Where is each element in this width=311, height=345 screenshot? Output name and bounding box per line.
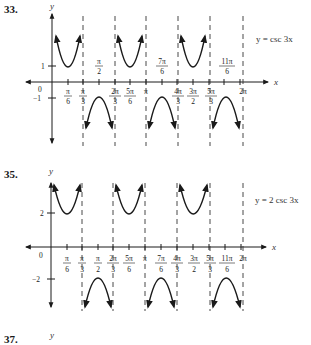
- x-axis-label: x: [273, 77, 278, 87]
- problem-number: 33.: [4, 3, 18, 15]
- svg-text:π: π: [96, 254, 100, 263]
- svg-text:6: 6: [225, 67, 229, 76]
- figure-page: 33. y x y = csc 3x 1 −1 0 π6 π3 2π3 5π6 …: [0, 0, 311, 345]
- svg-text:π: π: [65, 254, 69, 263]
- y-axis-label: y: [49, 1, 54, 11]
- y-axis-label: y: [49, 330, 54, 340]
- asymptotes: [83, 16, 243, 146]
- graph-33: 33. y x y = csc 3x 1 −1 0 π6 π3 2π3 5π6 …: [4, 1, 293, 146]
- problem-number: 35.: [4, 168, 18, 180]
- y-tick-neg2: −2: [32, 275, 40, 284]
- svg-text:6: 6: [65, 265, 69, 274]
- y-tick-1: 1: [41, 62, 45, 71]
- svg-text:2: 2: [192, 265, 196, 274]
- y-tick-2: 2: [40, 209, 44, 218]
- svg-text:6: 6: [160, 67, 164, 76]
- svg-text:6: 6: [159, 265, 163, 274]
- svg-text:6: 6: [225, 265, 229, 274]
- svg-text:5π: 5π: [207, 87, 215, 96]
- graph-37: 37. y: [4, 330, 54, 345]
- svg-text:2: 2: [97, 67, 101, 76]
- graph-35: 35. y x y = 2 csc 3x 2 −2 0 π6 π3 π2 2π3…: [4, 166, 299, 311]
- svg-text:11π: 11π: [221, 254, 232, 263]
- x-axis-label: x: [271, 242, 276, 252]
- origin-label: 0: [38, 85, 42, 94]
- svg-text:6: 6: [66, 97, 70, 106]
- svg-text:2: 2: [191, 97, 195, 106]
- problem-number: 37.: [4, 333, 18, 345]
- svg-text:6: 6: [127, 265, 131, 274]
- svg-text:5π: 5π: [125, 254, 133, 263]
- equation-label: y = 2 csc 3x: [255, 195, 299, 205]
- svg-text:5π: 5π: [126, 87, 134, 96]
- svg-text:2: 2: [96, 265, 100, 274]
- equation-label: y = csc 3x: [256, 34, 293, 44]
- svg-text:11π: 11π: [221, 57, 232, 66]
- svg-text:7π: 7π: [158, 57, 166, 66]
- svg-text:7π: 7π: [157, 254, 165, 263]
- svg-text:3π: 3π: [189, 87, 197, 96]
- svg-text:π: π: [97, 57, 101, 66]
- svg-text:3π: 3π: [190, 254, 198, 263]
- svg-text:π: π: [66, 87, 70, 96]
- svg-text:6: 6: [128, 97, 132, 106]
- origin-label: 0: [39, 251, 43, 260]
- y-axis-label: y: [48, 166, 53, 176]
- y-tick-neg1: −1: [33, 94, 41, 103]
